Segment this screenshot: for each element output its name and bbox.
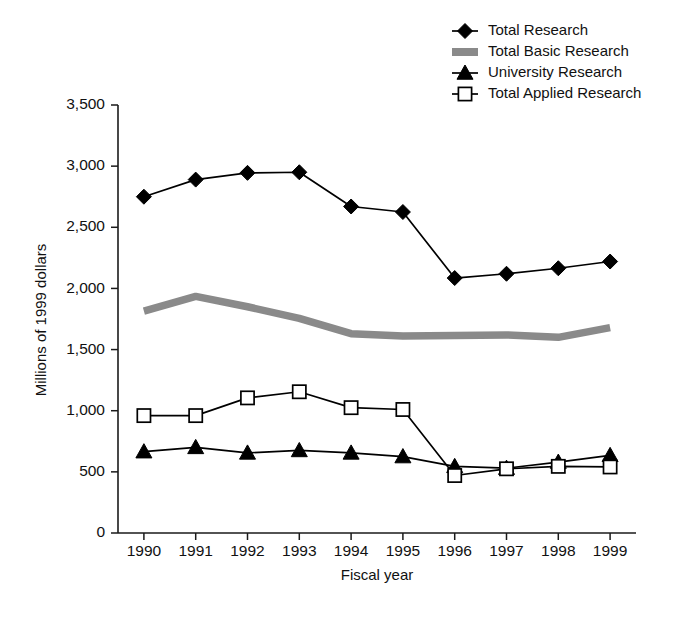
data-point-diamond [344, 199, 359, 214]
data-point-diamond [603, 254, 618, 269]
series-university-research [136, 439, 618, 474]
series-line-path [144, 392, 610, 476]
data-point-square [293, 385, 306, 398]
data-point-square [500, 462, 513, 475]
x-tick-label: 1999 [593, 542, 627, 559]
y-tick-label: 2,000 [66, 279, 105, 296]
x-tick-label: 1993 [282, 542, 316, 559]
data-point-diamond [499, 266, 514, 281]
chart-legend: Total ResearchTotal Basic ResearchUniver… [452, 21, 641, 101]
legend-item-total-applied-research[interactable]: Total Applied Research [452, 84, 641, 101]
series-total-basic-research [144, 296, 610, 337]
series-band-path [144, 296, 610, 337]
data-point-square [345, 401, 358, 414]
x-tick-label: 1991 [178, 542, 212, 559]
x-tick-label: 1998 [541, 542, 575, 559]
y-tick-label: 500 [79, 462, 105, 479]
legend-item-university-research[interactable]: University Research [452, 63, 622, 80]
y-tick-label: 0 [96, 523, 105, 540]
data-point-triangle [457, 65, 473, 79]
data-point-square [604, 460, 617, 473]
line-chart: Millions of 1999 dollars 05001,0001,5002… [0, 0, 691, 617]
legend-item-total-research[interactable]: Total Research [452, 21, 588, 39]
data-point-diamond [292, 165, 307, 180]
y-axis-title-label: Millions of 1999 dollars [32, 244, 49, 397]
x-tick-label: 1992 [230, 542, 264, 559]
data-point-diamond [447, 271, 462, 286]
legend-label: Total Basic Research [488, 42, 629, 59]
y-axis-title: Millions of 1999 dollars [32, 244, 49, 397]
legend-item-total-basic-research[interactable]: Total Basic Research [452, 42, 629, 59]
series-markers [136, 439, 618, 474]
x-tick-label: 1997 [489, 542, 523, 559]
data-point-square [448, 469, 461, 482]
data-point-diamond [136, 189, 151, 204]
series-total-research [136, 165, 617, 286]
x-axis-ticks: 1990199119921993199419951996199719981999 [127, 533, 628, 559]
data-point-diamond [240, 165, 255, 180]
x-tick-label: 1994 [334, 542, 369, 559]
data-point-square [458, 87, 471, 100]
data-point-square [552, 460, 565, 473]
y-axis-ticks: 05001,0001,5002,0002,5003,0003,500 [66, 95, 118, 540]
data-point-square [241, 391, 254, 404]
legend-label: Total Research [488, 21, 588, 38]
legend-label: Total Applied Research [488, 84, 641, 101]
x-tick-label: 1995 [386, 542, 420, 559]
chart-container: Millions of 1999 dollars 05001,0001,5002… [0, 0, 691, 617]
data-point-square [396, 403, 409, 416]
y-tick-label: 3,500 [66, 95, 105, 112]
series-line-path [144, 447, 610, 468]
y-tick-label: 3,000 [66, 156, 105, 173]
series-markers [136, 165, 617, 286]
x-tick-label: 1996 [437, 542, 471, 559]
y-tick-label: 2,500 [66, 217, 105, 234]
series-line-path [144, 172, 610, 278]
data-point-triangle [291, 442, 307, 456]
data-point-diamond [458, 24, 473, 39]
data-point-square [137, 409, 150, 422]
data-point-triangle [188, 439, 204, 453]
data-point-diamond [551, 261, 566, 276]
data-point-diamond [395, 205, 410, 220]
series-total-applied-research [137, 385, 616, 482]
data-point-triangle [602, 447, 618, 461]
x-axis-title-label: Fiscal year [341, 566, 414, 583]
data-point-diamond [188, 172, 203, 187]
data-point-square [189, 409, 202, 422]
y-tick-label: 1,500 [66, 340, 105, 357]
legend-label: University Research [488, 63, 622, 80]
y-tick-label: 1,000 [66, 401, 105, 418]
x-tick-label: 1990 [127, 542, 162, 559]
data-series-layer [136, 165, 618, 482]
